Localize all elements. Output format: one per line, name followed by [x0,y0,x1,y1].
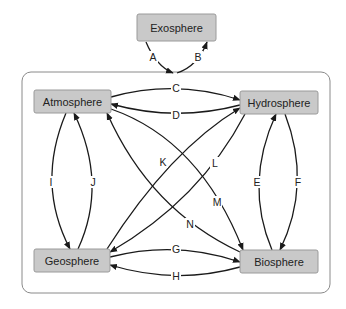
earth-systems-diagram: ABCDEFIJKLMNGH ExosphereAtmosphereHydros… [0,0,346,309]
exosphere-label: Exosphere [150,22,203,34]
node-exosphere: Exosphere [137,14,216,41]
edge-label-g: G [172,243,180,255]
edge-label-j: J [90,176,95,188]
edge-k-arrow [107,108,240,249]
edge-m-arrow [111,109,243,250]
hydrosphere-label: Hydrosphere [248,97,311,109]
edge-label-i: I [50,176,53,188]
edge-label-k: K [159,156,166,168]
node-atmosphere: Atmosphere [34,90,111,113]
node-hydrosphere: Hydrosphere [240,91,318,114]
edge-label-h: H [172,270,180,282]
edge-label-m: M [213,196,222,208]
edge-label-n: N [186,218,194,230]
nodes-group: ExosphereAtmosphereHydrosphereGeosphereB… [34,14,318,273]
edge-label-l: L [212,157,218,169]
edge-label-a: A [149,51,156,63]
edge-label-b: B [194,51,201,63]
edge-label-c: C [172,82,180,94]
edge-l-arrow [110,114,245,252]
edges-group: ABCDEFIJKLMNGH [46,42,303,282]
geosphere-label: Geosphere [45,255,99,267]
edge-label-e: E [253,176,260,188]
node-biosphere: Biosphere [240,250,318,273]
node-geosphere: Geosphere [34,249,110,272]
biosphere-label: Biosphere [254,256,304,268]
edge-label-d: D [172,109,180,121]
atmosphere-label: Atmosphere [43,96,102,108]
edge-n-arrow [107,113,240,252]
edge-label-f: F [295,176,301,188]
